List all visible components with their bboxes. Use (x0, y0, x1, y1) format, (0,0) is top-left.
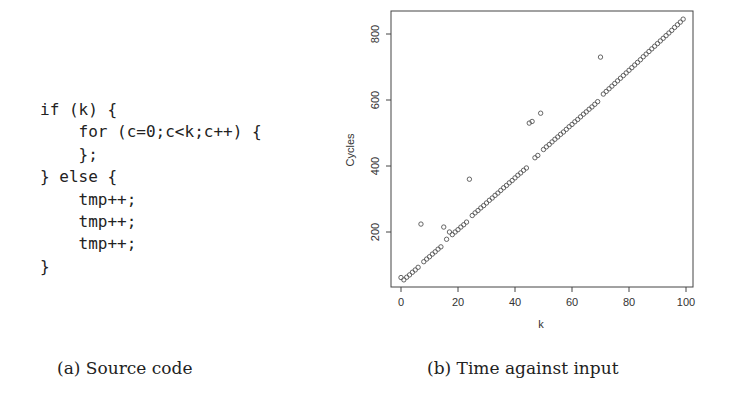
x-tick-label: 60 (566, 296, 578, 308)
data-point (456, 227, 460, 231)
data-point (672, 25, 676, 29)
y-tick-label: 400 (369, 157, 381, 175)
data-point (661, 36, 665, 40)
data-point (521, 168, 525, 172)
data-point (470, 213, 474, 217)
data-point (510, 178, 514, 182)
data-point (496, 191, 500, 195)
data-point (681, 17, 685, 21)
data-point (410, 270, 414, 274)
data-point (650, 47, 654, 51)
data-point (538, 111, 542, 115)
data-point (479, 206, 483, 210)
data-point (593, 102, 597, 106)
data-point (544, 145, 548, 149)
data-point (473, 211, 477, 215)
data-point (658, 39, 662, 43)
data-point (607, 87, 611, 91)
data-point (578, 115, 582, 119)
data-point (462, 223, 466, 227)
data-point (447, 230, 451, 234)
data-point (647, 49, 651, 53)
data-point (439, 245, 443, 249)
data-point (570, 122, 574, 126)
data-point (615, 79, 619, 83)
data-point (513, 176, 517, 180)
scatter-plot: 020406080100 200400600800 k Cycles (0, 0, 729, 400)
data-point (547, 142, 551, 146)
data-point (416, 265, 420, 269)
data-point (433, 250, 437, 254)
y-tick-label: 600 (369, 91, 381, 109)
data-point (524, 166, 528, 170)
data-point (567, 125, 571, 129)
data-point (476, 208, 480, 212)
data-point (604, 89, 608, 93)
data-point (499, 188, 503, 192)
data-point (422, 260, 426, 264)
data-point (633, 63, 637, 67)
data-point (675, 23, 679, 27)
data-point (504, 183, 508, 187)
data-point (493, 193, 497, 197)
data-point (561, 130, 565, 134)
data-point (641, 55, 645, 59)
data-point (630, 65, 634, 69)
data-point (413, 268, 417, 272)
data-point (595, 99, 599, 103)
data-point (635, 60, 639, 64)
data-point (481, 203, 485, 207)
data-point (427, 255, 431, 259)
x-tick-label: 40 (509, 296, 521, 308)
x-tick-label: 80 (623, 296, 635, 308)
data-point (405, 275, 409, 279)
data-point (550, 140, 554, 144)
x-tick-label: 100 (677, 296, 695, 308)
data-point (627, 68, 631, 72)
data-point (553, 137, 557, 141)
data-point (667, 31, 671, 35)
data-point (487, 198, 491, 202)
data-point (558, 132, 562, 136)
data-point (442, 225, 446, 229)
data-point (402, 278, 406, 282)
data-point (484, 201, 488, 205)
data-point (399, 275, 403, 279)
data-point (424, 257, 428, 261)
data-point (533, 156, 537, 160)
y-tick-label: 800 (369, 25, 381, 43)
data-point (556, 135, 560, 139)
data-point (444, 237, 448, 241)
data-point (644, 52, 648, 56)
x-axis-label: k (538, 318, 544, 330)
data-point (576, 117, 580, 121)
data-point (652, 44, 656, 48)
data-point (453, 230, 457, 234)
data-point (610, 84, 614, 88)
y-axis-label: Cycles (344, 133, 356, 167)
data-point (516, 173, 520, 177)
data-point (584, 110, 588, 114)
data-point (450, 232, 454, 236)
data-point (581, 112, 585, 116)
data-point (601, 92, 605, 96)
data-point (501, 186, 505, 190)
x-tick-label: 0 (398, 296, 404, 308)
data-point (590, 105, 594, 109)
data-point (430, 252, 434, 256)
data-point (464, 220, 468, 224)
data-point (419, 222, 423, 226)
data-point (467, 177, 471, 181)
data-point (618, 76, 622, 80)
data-point (624, 71, 628, 75)
data-point (536, 153, 540, 157)
data-point (564, 127, 568, 131)
data-point (541, 147, 545, 151)
data-point (613, 81, 617, 85)
x-tick-label: 20 (452, 296, 464, 308)
data-point (573, 120, 577, 124)
data-point (507, 181, 511, 185)
data-point (490, 196, 494, 200)
y-axis: 200400600800 (369, 25, 391, 241)
data-point (436, 247, 440, 251)
